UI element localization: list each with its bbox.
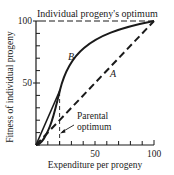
tangent-line (36, 90, 60, 145)
y-tick-100: 100 (18, 16, 33, 26)
curve-a-label: A (109, 68, 117, 79)
x-tick-100: 100 (147, 149, 162, 159)
chart: Individual progeny's optimum 100 50 50 1… (0, 0, 174, 175)
parental-label-2: optimum (77, 122, 112, 132)
y-axis-label: Fitness of individual progeny (5, 31, 15, 143)
top-annotation: Individual progeny's optimum (37, 8, 158, 19)
x-ticks (48, 140, 154, 145)
curve-b-label: B (68, 51, 74, 62)
y-tick-50: 50 (23, 78, 33, 88)
parental-label-1: Parental (77, 111, 108, 121)
x-axis-label: Expenditure per progeny (48, 160, 143, 170)
x-tick-50: 50 (90, 149, 100, 159)
arrow-head-icon (60, 129, 66, 134)
